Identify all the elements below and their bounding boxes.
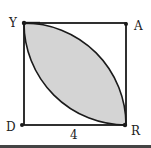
vertex-label-d: D <box>6 120 16 134</box>
geometry-diagram: Y A D R 4 <box>0 0 151 148</box>
vertex-label-y: Y <box>8 16 18 30</box>
vertex-label-r: R <box>131 124 141 138</box>
vertex-dot-r <box>123 123 127 127</box>
vertex-dot-y <box>22 21 26 25</box>
vertex-label-a: A <box>133 19 143 33</box>
shaded-lens-region <box>24 23 126 125</box>
vertex-dot-a <box>124 22 128 26</box>
bottom-rule <box>0 145 151 148</box>
vertex-dot-d <box>20 123 24 127</box>
side-length-label: 4 <box>70 128 78 142</box>
